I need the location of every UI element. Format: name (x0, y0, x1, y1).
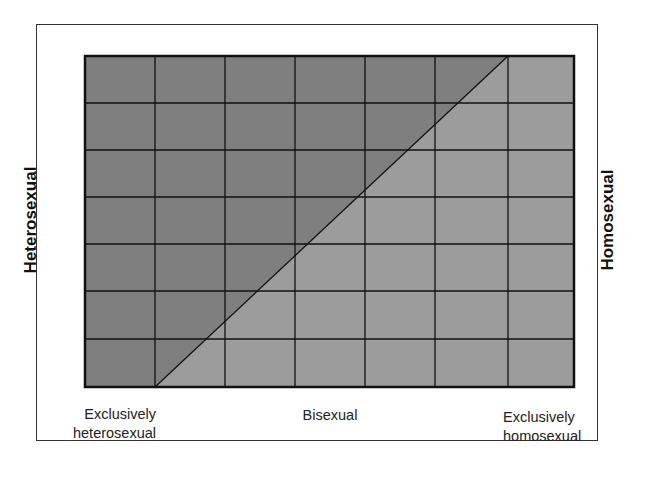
label-line: homosexual (503, 427, 603, 446)
label-line: Exclusively (503, 408, 603, 427)
exclusively-heterosexual-label: Exclusively heterosexual (56, 405, 156, 443)
label-line: heterosexual (56, 424, 156, 443)
exclusively-homosexual-label: Exclusively homosexual (503, 408, 603, 446)
heterosexual-axis-label: Heterosexual (21, 165, 41, 275)
label-line: Exclusively (56, 405, 156, 424)
homosexual-axis-label: Homosexual (598, 165, 618, 275)
bisexual-label: Bisexual (290, 406, 370, 425)
